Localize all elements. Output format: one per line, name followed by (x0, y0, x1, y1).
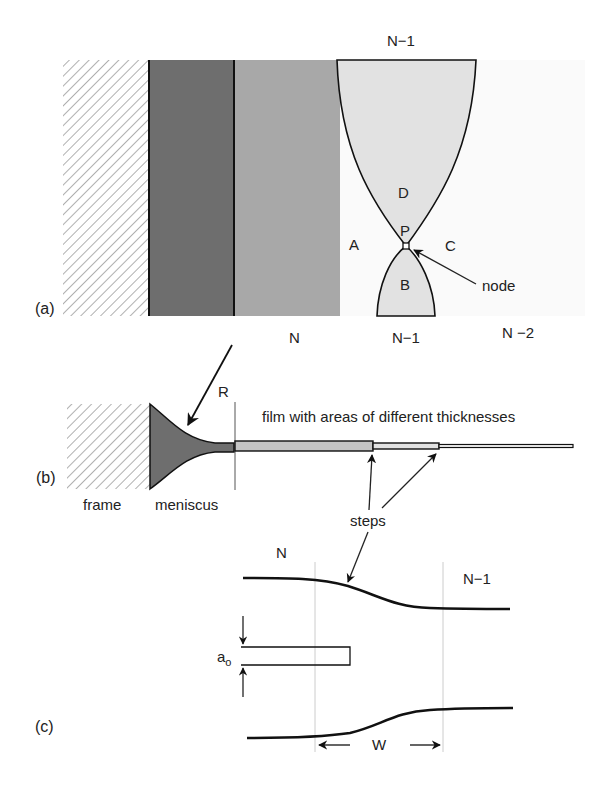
region-label-b: B (400, 276, 410, 293)
meniscus-label: meniscus (155, 496, 218, 513)
film-segment-n (235, 441, 373, 451)
frame-hatch-b (67, 404, 150, 489)
foam-film-diagram: N−1 D P A C B node (a) N N−1 N −2 R film… (0, 0, 601, 785)
panel-c: N N−1 ao W (c) (35, 544, 513, 753)
node-label: node (482, 277, 515, 294)
panel-label-b: (b) (36, 469, 56, 486)
region-label-c: C (445, 237, 456, 254)
step-arrow-2 (382, 454, 436, 508)
film-segment-n-minus-1 (373, 443, 439, 449)
frame-hatch-region (63, 60, 149, 316)
panel-label-c: (c) (35, 718, 54, 735)
panel-b: R film with areas of different thickness… (36, 345, 573, 582)
step-arrow-3 (348, 532, 368, 582)
thickness-box (241, 647, 350, 665)
region-label-a: A (349, 236, 359, 253)
bottom-label-n-minus-1: N−1 (392, 329, 420, 346)
film-caption: film with areas of different thicknesses (262, 408, 515, 425)
top-label-n-minus-1: N−1 (387, 32, 415, 49)
meniscus-region (149, 60, 234, 316)
region-label-d: D (398, 184, 409, 201)
node-point-p (403, 243, 409, 249)
frame-label: frame (83, 496, 121, 513)
label-n-left: N (276, 544, 287, 561)
step-arrow-1 (369, 455, 372, 510)
thickness-subscript: o (225, 656, 231, 668)
film-segment-n-minus-2 (439, 445, 573, 448)
radius-label: R (218, 383, 229, 400)
node-point-label-p: P (400, 222, 410, 239)
width-label: W (372, 736, 387, 753)
thickness-label: ao (217, 648, 231, 668)
label-n-minus-1-right: N−1 (463, 570, 491, 587)
bottom-label-n-minus-2: N −2 (502, 324, 534, 341)
bottom-label-n: N (289, 329, 300, 346)
panel-a: N−1 D P A C B node (a) N N−1 N −2 (35, 32, 585, 346)
panel-label-a: (a) (35, 300, 55, 317)
film-profile-bottom (247, 708, 513, 738)
steps-label: steps (350, 512, 386, 529)
